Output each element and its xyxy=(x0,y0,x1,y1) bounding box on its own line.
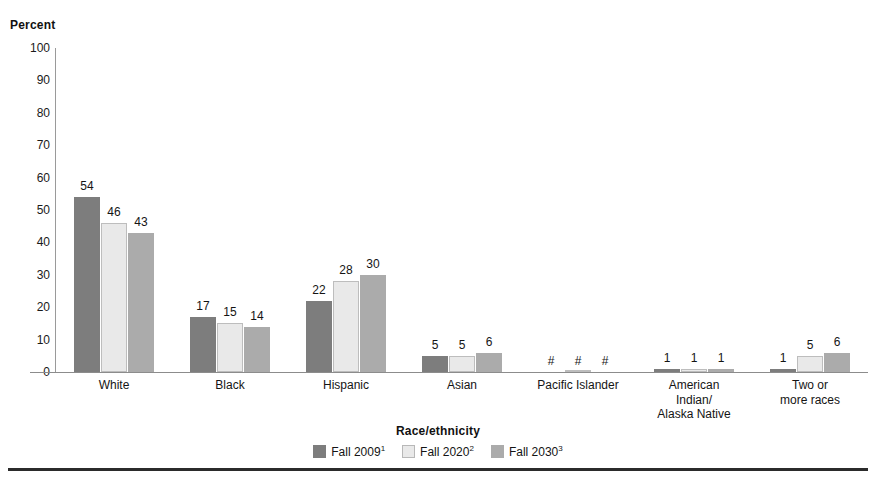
bar-group-bars: 171514 xyxy=(190,48,270,372)
category-label-line: Alaska Native xyxy=(636,407,752,422)
bar[interactable] xyxy=(476,353,502,372)
bar-chart-figure: Percent 1009080706050403020100 544643171… xyxy=(0,0,876,481)
x-axis-category-label: Pacific Islander xyxy=(520,378,636,393)
bar-slot: 5 xyxy=(797,48,823,372)
bar-slot: 5 xyxy=(422,48,448,372)
bar-value-label: 1 xyxy=(701,352,741,364)
bar[interactable] xyxy=(217,323,243,372)
bar[interactable] xyxy=(449,356,475,372)
x-axis-category-label: Asian xyxy=(404,378,520,393)
bar[interactable] xyxy=(797,356,823,372)
bar-slot: 14 xyxy=(244,48,270,372)
bar-group: 222830 xyxy=(306,48,386,372)
category-label-line: White xyxy=(56,378,172,393)
bar-slot: 28 xyxy=(333,48,359,372)
y-axis-tick-90: 90 xyxy=(4,74,50,86)
bottom-rule xyxy=(8,468,868,471)
x-axis-category-label: Hispanic xyxy=(288,378,404,393)
x-axis-title: Race/ethnicity xyxy=(0,424,876,438)
bar-value-label: # xyxy=(585,355,625,367)
bar-group: 156 xyxy=(770,48,850,372)
bar-value-label: 6 xyxy=(469,336,509,348)
category-label-line: Indian/ xyxy=(636,393,752,408)
legend-label: Fall 20202 xyxy=(420,444,474,459)
bar-slot: 6 xyxy=(824,48,850,372)
bar-group: 111 xyxy=(654,48,734,372)
bar-slot: 5 xyxy=(449,48,475,372)
bar-slot: 17 xyxy=(190,48,216,372)
category-label-line: Black xyxy=(172,378,288,393)
bar-slot: # xyxy=(592,48,618,372)
category-label-line: American xyxy=(636,378,752,393)
bar-value-label: 30 xyxy=(353,258,393,270)
bar[interactable] xyxy=(306,301,332,372)
bar-slot: 46 xyxy=(101,48,127,372)
bar-group-bars: 544643 xyxy=(74,48,154,372)
bar-slot: 15 xyxy=(217,48,243,372)
bar-group: 544643 xyxy=(74,48,154,372)
x-axis-category-label: White xyxy=(56,378,172,393)
y-axis-tick-40: 40 xyxy=(4,236,50,248)
legend-footnote-marker: 2 xyxy=(469,444,473,453)
bar-slot: 1 xyxy=(770,48,796,372)
legend-item[interactable]: Fall 20091 xyxy=(313,444,385,459)
legend-swatch-icon xyxy=(491,445,504,458)
category-label-line: Two or xyxy=(752,378,868,393)
bar-slot: 22 xyxy=(306,48,332,372)
chart-legend: Fall 20091Fall 20202Fall 20303 xyxy=(0,444,876,459)
legend-swatch-icon xyxy=(402,445,415,458)
bar[interactable] xyxy=(128,233,154,372)
bar-slot: 6 xyxy=(476,48,502,372)
category-label-line: Pacific Islander xyxy=(520,378,636,393)
bar[interactable] xyxy=(74,197,100,372)
bar[interactable] xyxy=(101,223,127,372)
bar-slot: 1 xyxy=(654,48,680,372)
bar[interactable] xyxy=(565,370,591,372)
y-axis-tick-labels: 1009080706050403020100 xyxy=(0,48,50,372)
bar-group: ### xyxy=(538,48,618,372)
bar-slot: 1 xyxy=(681,48,707,372)
x-axis-line xyxy=(30,372,868,373)
bar[interactable] xyxy=(360,275,386,372)
legend-swatch-icon xyxy=(313,445,326,458)
legend-label: Fall 20303 xyxy=(509,444,563,459)
legend-item[interactable]: Fall 20202 xyxy=(402,444,474,459)
bar[interactable] xyxy=(708,369,734,372)
y-axis-tick-60: 60 xyxy=(4,172,50,184)
bar[interactable] xyxy=(422,356,448,372)
bar[interactable] xyxy=(681,369,707,372)
y-axis-tick-50: 50 xyxy=(4,204,50,216)
bar[interactable] xyxy=(333,281,359,372)
bar-slot: 30 xyxy=(360,48,386,372)
bar-group: 171514 xyxy=(190,48,270,372)
x-axis-category-label: AmericanIndian/Alaska Native xyxy=(636,378,752,422)
bar-group-bars: ### xyxy=(538,48,618,372)
bar[interactable] xyxy=(770,369,796,372)
x-axis-category-label: Two ormore races xyxy=(752,378,868,407)
bar[interactable] xyxy=(824,353,850,372)
category-label-line: Hispanic xyxy=(288,378,404,393)
bar-group-bars: 222830 xyxy=(306,48,386,372)
y-axis-tick-30: 30 xyxy=(4,269,50,281)
bar-group: 556 xyxy=(422,48,502,372)
legend-footnote-marker: 1 xyxy=(381,444,385,453)
bar[interactable] xyxy=(244,327,270,372)
bar-group-bars: 556 xyxy=(422,48,502,372)
bar-groups: 544643171514222830556###111156 xyxy=(56,48,868,372)
bar-slot: 43 xyxy=(128,48,154,372)
bar-value-label: 14 xyxy=(237,310,277,322)
bar[interactable] xyxy=(190,317,216,372)
y-axis-tick-20: 20 xyxy=(4,301,50,313)
y-axis-tick-80: 80 xyxy=(4,107,50,119)
category-label-line: Asian xyxy=(404,378,520,393)
y-axis-tick-70: 70 xyxy=(4,139,50,151)
bar-group-bars: 156 xyxy=(770,48,850,372)
x-axis-category-label: Black xyxy=(172,378,288,393)
bar-group-bars: 111 xyxy=(654,48,734,372)
bar-slot: # xyxy=(565,48,591,372)
legend-label: Fall 20091 xyxy=(331,444,385,459)
legend-footnote-marker: 3 xyxy=(558,444,562,453)
bar[interactable] xyxy=(654,369,680,372)
legend-item[interactable]: Fall 20303 xyxy=(491,444,563,459)
bar-value-label: 43 xyxy=(121,216,161,228)
